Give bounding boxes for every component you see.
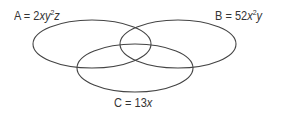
equals-sign: = — [125, 96, 131, 110]
set-a-label: A = 2xy2z — [14, 10, 60, 23]
set-c-var1: x — [147, 96, 153, 110]
set-b-var2: y — [257, 9, 263, 23]
set-c-coefficient: 13 — [135, 96, 147, 110]
set-c-name: C — [114, 96, 122, 110]
equals-sign: = — [24, 9, 30, 23]
set-a-var1: xy — [39, 9, 50, 23]
equals-sign: = — [225, 9, 231, 23]
set-a-var2: z — [54, 9, 60, 23]
set-a-name: A — [14, 9, 21, 23]
set-b-label: B = 52x2y — [215, 10, 262, 23]
set-c-label: C = 13x — [114, 97, 152, 110]
set-b-name: B — [215, 9, 222, 23]
set-b-coefficient: 52 — [235, 9, 247, 23]
